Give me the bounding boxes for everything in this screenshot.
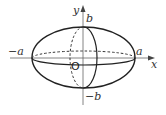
y-axis-label: y: [72, 4, 80, 17]
origin-label: O: [71, 60, 80, 73]
ellipsoid-diagram: y b −a a x O −b: [0, 0, 166, 115]
meridian-back-dashed: [70, 27, 84, 88]
meridian-front-solid: [84, 27, 98, 88]
label-pos-a: a: [136, 45, 143, 58]
label-neg-b: −b: [85, 90, 101, 103]
diagram-svg: y b −a a x O −b: [0, 0, 166, 115]
y-axis-arrow-icon: [81, 5, 86, 12]
equator-back-dashed: [32, 51, 135, 58]
label-pos-b: b: [86, 12, 93, 25]
x-axis-label: x: [151, 58, 158, 71]
label-neg-a: −a: [8, 45, 24, 58]
equator-front-solid: [32, 58, 135, 65]
outer-ellipse: [32, 27, 135, 88]
